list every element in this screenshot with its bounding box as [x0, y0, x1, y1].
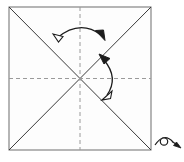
eye-view-symbol	[155, 138, 181, 148]
origami-diagram-figure: Origami square with diagonal creases and…	[0, 0, 184, 162]
eye-pupil-icon	[160, 138, 167, 145]
origami-diagram-canvas: Origami square with diagonal creases and…	[0, 0, 184, 162]
